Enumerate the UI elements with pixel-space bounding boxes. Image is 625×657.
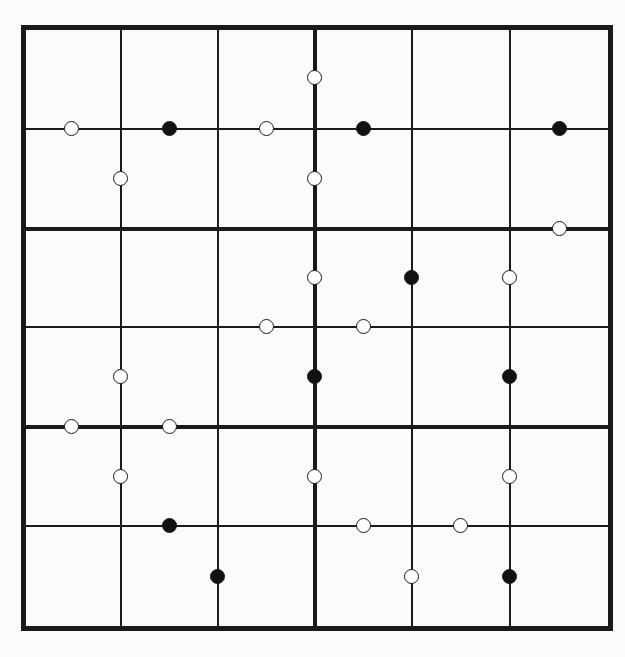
- grid-line-horizontal: [21, 128, 613, 129]
- grid-cell[interactable]: [315, 327, 412, 427]
- grid-cell[interactable]: [315, 27, 412, 129]
- white-dot-icon: [356, 518, 371, 533]
- grid-cell[interactable]: [218, 526, 315, 628]
- white-dot-icon: [502, 469, 517, 484]
- grid-line-horizontal: [21, 326, 613, 327]
- grid-cell[interactable]: [121, 229, 218, 327]
- border-line: [21, 25, 613, 30]
- grid-cell[interactable]: [315, 129, 412, 229]
- grid-cell[interactable]: [23, 427, 121, 526]
- grid-cell[interactable]: [218, 129, 315, 229]
- black-dot-icon: [162, 121, 177, 136]
- grid-line-horizontal: [21, 525, 613, 526]
- grid-cell[interactable]: [218, 427, 315, 526]
- grid-cell[interactable]: [121, 526, 218, 628]
- black-dot-icon: [502, 369, 517, 384]
- white-dot-icon: [113, 369, 128, 384]
- grid-cell[interactable]: [23, 526, 121, 628]
- grid-cell[interactable]: [23, 129, 121, 229]
- grid-cell[interactable]: [315, 229, 412, 327]
- box-divider-horizontal: [21, 425, 613, 429]
- kropki-puzzle-board: [0, 0, 625, 657]
- grid-cell[interactable]: [412, 129, 510, 229]
- white-dot-icon: [64, 121, 79, 136]
- grid-cell[interactable]: [121, 327, 218, 427]
- white-dot-icon: [113, 469, 128, 484]
- grid-cell[interactable]: [121, 427, 218, 526]
- black-dot-icon: [210, 569, 225, 584]
- grid-cell[interactable]: [23, 229, 121, 327]
- box-divider-horizontal: [21, 227, 613, 231]
- grid-cell[interactable]: [23, 27, 121, 129]
- border-line: [21, 626, 613, 631]
- white-dot-icon: [64, 419, 79, 434]
- grid-cell[interactable]: [412, 526, 510, 628]
- black-dot-icon: [307, 369, 322, 384]
- grid-cell[interactable]: [510, 129, 610, 229]
- grid-cell[interactable]: [510, 229, 610, 327]
- black-dot-icon: [162, 518, 177, 533]
- grid-cell[interactable]: [218, 327, 315, 427]
- grid-cell[interactable]: [412, 27, 510, 129]
- black-dot-icon: [356, 121, 371, 136]
- grid-cell[interactable]: [121, 27, 218, 129]
- white-dot-icon: [259, 319, 274, 334]
- grid-cell[interactable]: [412, 229, 510, 327]
- grid-cell[interactable]: [510, 427, 610, 526]
- grid-cell[interactable]: [218, 27, 315, 129]
- grid-cell[interactable]: [218, 229, 315, 327]
- white-dot-icon: [404, 569, 419, 584]
- grid-cell[interactable]: [121, 129, 218, 229]
- grid-cell[interactable]: [510, 526, 610, 628]
- white-dot-icon: [259, 121, 274, 136]
- grid-cell[interactable]: [510, 327, 610, 427]
- black-dot-icon: [404, 270, 419, 285]
- grid-cell[interactable]: [510, 27, 610, 129]
- grid-cell[interactable]: [23, 327, 121, 427]
- white-dot-icon: [453, 518, 468, 533]
- white-dot-icon: [552, 221, 567, 236]
- white-dot-icon: [307, 70, 322, 85]
- white-dot-icon: [113, 171, 128, 186]
- white-dot-icon: [502, 270, 517, 285]
- black-dot-icon: [502, 569, 517, 584]
- grid-cell[interactable]: [315, 526, 412, 628]
- black-dot-icon: [552, 121, 567, 136]
- white-dot-icon: [162, 419, 177, 434]
- white-dot-icon: [307, 270, 322, 285]
- white-dot-icon: [356, 319, 371, 334]
- white-dot-icon: [307, 469, 322, 484]
- grid-cell[interactable]: [315, 427, 412, 526]
- grid-cell[interactable]: [412, 427, 510, 526]
- grid-cell[interactable]: [412, 327, 510, 427]
- white-dot-icon: [307, 171, 322, 186]
